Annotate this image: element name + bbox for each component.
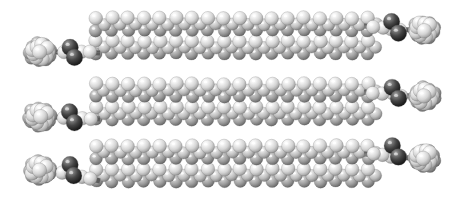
heteroatom [390, 149, 407, 166]
carbon-atom [217, 78, 231, 92]
carbon-atom [330, 101, 344, 115]
carbon-atom [185, 11, 199, 25]
terminal-atom [417, 89, 432, 104]
chain-row [89, 77, 382, 104]
carbon-atom [249, 12, 263, 26]
carbon-atom [170, 77, 184, 91]
carbon-atom [345, 12, 359, 26]
carbon-atom [201, 78, 215, 92]
carbon-atom [297, 11, 311, 25]
terminal-atom [417, 23, 432, 38]
carbon-atom [313, 77, 327, 91]
carbon-atom [233, 139, 247, 153]
carbon-atom [89, 77, 103, 91]
carbon-atom [138, 77, 152, 91]
linker-atom [83, 45, 97, 59]
carbon-atom [249, 77, 263, 91]
carbon-atom [330, 139, 344, 153]
carbon-atom [170, 11, 184, 25]
terminal-atom [32, 163, 47, 178]
carbon-atom [345, 77, 359, 91]
carbon-atom [217, 139, 231, 153]
carbon-atom [217, 12, 231, 26]
carbon-atom [153, 163, 167, 177]
carbon-atom [297, 140, 311, 154]
carbon-atom [153, 139, 167, 153]
carbon-atom [137, 139, 151, 153]
linker-atom [367, 147, 381, 161]
molecular-model-figure [0, 0, 466, 202]
carbon-atom [282, 139, 296, 153]
carbon-atom [121, 77, 135, 91]
carbon-atom [265, 139, 279, 153]
carbon-atom [346, 139, 360, 153]
carbon-atom [233, 34, 247, 48]
carbon-atom [345, 163, 359, 177]
terminal-atom [33, 109, 48, 124]
chain-row [90, 139, 382, 166]
carbon-atom [313, 139, 327, 153]
linker-atom [366, 86, 380, 100]
molecule-canvas [0, 0, 466, 202]
carbon-atom [89, 11, 103, 25]
linker-atom [84, 112, 98, 126]
chain-row [89, 100, 382, 126]
carbon-atom [266, 35, 280, 49]
chain-row [89, 162, 381, 189]
carbon-atom [138, 101, 152, 115]
terminal-atom [416, 151, 431, 166]
heteroatom [390, 25, 407, 42]
carbon-atom [121, 140, 135, 154]
carbon-atom [106, 11, 120, 25]
carbon-atom [266, 77, 280, 91]
carbon-atom [313, 12, 327, 26]
carbon-atom [297, 35, 311, 49]
carbon-atom [154, 100, 168, 114]
carbon-atom [185, 77, 199, 91]
carbon-atom [281, 12, 295, 26]
carbon-atom [90, 139, 104, 153]
carbon-atom [233, 78, 247, 92]
carbon-atom [153, 11, 167, 25]
carbon-atom [138, 35, 152, 49]
linker-atom [366, 20, 380, 34]
carbon-atom [266, 101, 280, 115]
heteroatom [66, 49, 83, 66]
carbon-atom [282, 77, 296, 91]
carbon-atom [314, 34, 328, 48]
carbon-atom [330, 11, 344, 25]
carbon-atom [329, 77, 343, 91]
carbon-atom [169, 139, 183, 153]
carbon-atom [265, 12, 279, 26]
carbon-atom [137, 11, 151, 25]
carbon-atom [201, 11, 215, 25]
carbon-atom [201, 35, 215, 49]
carbon-atom [185, 139, 199, 153]
heteroatom [65, 167, 82, 184]
carbon-atom [106, 77, 120, 91]
carbon-atom [121, 11, 135, 25]
carbon-atom [201, 140, 215, 154]
linker-atom [83, 172, 97, 186]
heteroatom [390, 90, 407, 107]
carbon-atom [233, 11, 247, 25]
chain-row [89, 34, 382, 61]
carbon-atom [105, 139, 119, 153]
carbon-atom [249, 139, 263, 153]
carbon-atom [233, 101, 247, 115]
carbon-atom [249, 35, 263, 49]
carbon-atom [153, 78, 167, 92]
carbon-atom [297, 77, 311, 91]
terminal-atom [32, 45, 47, 60]
heteroatom [66, 114, 83, 131]
chain-row [89, 11, 383, 38]
